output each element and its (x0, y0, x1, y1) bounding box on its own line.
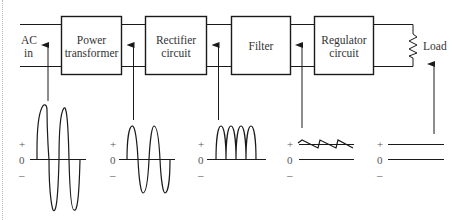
regulator-label-line2: circuit (329, 47, 359, 59)
zero-label: 0 (19, 154, 25, 166)
page-edge (2, 0, 3, 220)
minus-label: – (18, 169, 25, 181)
power-supply-diagram: AC in Power transformer Rectifier circui… (0, 0, 464, 220)
power-transformer-label-line1: Power (77, 34, 107, 46)
plus-label: + (110, 138, 116, 150)
ac-in-label-line1: AC (21, 34, 37, 46)
waveform-filter-output: + 0 – (286, 138, 354, 181)
waveform-rectifier-output: + 0 – (197, 126, 266, 181)
filter-label: Filter (249, 40, 274, 52)
rectifier-label-line2: circuit (161, 47, 191, 59)
rectifier-label-line1: Rectifier (156, 34, 196, 46)
zero-label: 0 (110, 154, 116, 166)
power-transformer-label-line2: transformer (65, 47, 119, 59)
waveform-transformer-output: + 0 – (109, 126, 175, 193)
diagram-svg: AC in Power transformer Rectifier circui… (0, 0, 464, 220)
plus-label: + (287, 138, 293, 150)
waveform-ac-input: + 0 – (18, 105, 86, 211)
zero-label: 0 (287, 154, 293, 166)
ac-in-label-line2: in (24, 47, 33, 59)
minus-label: – (286, 169, 293, 181)
minus-label: – (376, 169, 383, 181)
load-resistor-icon (409, 34, 417, 58)
zero-label: 0 (377, 154, 383, 166)
plus-label: + (19, 138, 25, 150)
waveform-regulator-output: + 0 – (376, 138, 444, 181)
plus-label: + (198, 138, 204, 150)
regulator-label-line1: Regulator (321, 34, 367, 47)
minus-label: – (109, 169, 116, 181)
zero-label: 0 (198, 154, 204, 166)
load-label: Load (423, 40, 447, 52)
plus-label: + (377, 138, 383, 150)
minus-label: – (197, 169, 204, 181)
